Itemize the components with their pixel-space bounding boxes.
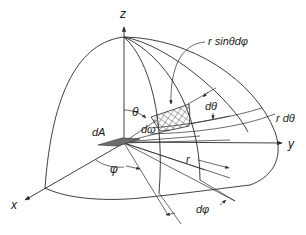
d-theta-label: dθ xyxy=(205,100,217,112)
y-axis-label: y xyxy=(287,137,295,151)
z-axis-label: z xyxy=(119,7,126,21)
r-sin-theta-d-phi-label: r sinθdφ xyxy=(208,35,248,47)
y-axis: y xyxy=(124,137,295,151)
x-axis-label: x xyxy=(10,198,18,212)
d-omega-label: dω xyxy=(141,123,156,135)
theta-label: θ xyxy=(132,105,139,119)
spherical-solid-angle-diagram: z y x dA θ dω φ r r sinθdφ xyxy=(0,0,306,235)
d-phi-label: dφ xyxy=(196,203,209,215)
x-axis: x xyxy=(10,143,124,212)
z-axis: z xyxy=(119,7,126,140)
dA-label: dA xyxy=(92,126,105,138)
phi-label: φ xyxy=(110,162,118,176)
hatched-surface-element xyxy=(151,104,190,131)
r-d-theta-label: r dθ xyxy=(276,112,295,124)
r-label: r xyxy=(186,153,191,165)
radial-rays xyxy=(124,120,235,224)
